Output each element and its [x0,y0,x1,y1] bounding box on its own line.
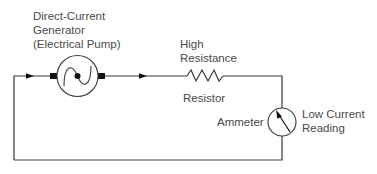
circuit-diagram: Direct-Current Generator (Electrical Pum… [0,0,377,174]
generator-label-line-1: Direct-Current [33,10,106,22]
high-resistance-line-1: High [180,38,204,50]
high-resistance-line-2: Resistance [180,52,237,64]
high-resistance-label: High Resistance [180,38,237,64]
wire-bottom [14,136,282,160]
low-current-line-2: Reading [302,122,345,134]
wire-top-right [223,76,282,108]
generator-label-line-2: Generator [33,24,85,36]
generator-terminal-left [50,73,57,79]
arrow-right-icon [139,73,147,78]
wire-left-top [14,76,51,160]
arrow-right-icon [26,73,34,78]
generator-label: Direct-Current Generator (Electrical Pum… [33,10,121,50]
ammeter-symbol [268,108,296,136]
resistor-symbol [187,70,223,81]
resistor-zigzag-icon [187,70,223,81]
low-current-line-1: Low Current [302,108,365,120]
ammeter-label: Ammeter [217,116,264,128]
low-current-reading-label: Low Current Reading [302,108,368,134]
generator-symbol [50,56,105,97]
generator-label-line-3: (Electrical Pump) [33,38,121,50]
generator-center-dot [75,73,81,79]
resistor-label: Resistor [183,92,225,104]
ammeter-circle [268,108,296,136]
generator-terminal-right [98,73,105,79]
